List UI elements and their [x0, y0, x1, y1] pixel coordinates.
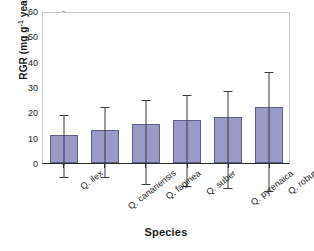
chart-figure: RGR (mg g-1 year-1) 0102030405060 Q. ile…	[0, 0, 314, 251]
y-axis-ticks: 0102030405060	[22, 12, 38, 164]
error-bar-cap-upper	[100, 107, 109, 108]
plot-area	[42, 12, 290, 164]
x-tick-label: Q. ilex	[78, 168, 104, 192]
error-bar-cap-upper	[59, 115, 68, 116]
y-tick-label: 0	[33, 160, 38, 169]
bar-slot	[166, 13, 207, 163]
bar	[50, 135, 78, 163]
bar	[214, 117, 242, 163]
error-bar-cap-upper	[223, 91, 232, 92]
y-tick-label: 20	[28, 109, 38, 118]
y-tick-label: 10	[28, 134, 38, 143]
y-tick-label: 40	[28, 58, 38, 67]
error-bar-cap-upper	[141, 100, 150, 101]
bar-slot	[207, 13, 248, 163]
bar-series	[43, 13, 289, 163]
bar	[91, 130, 119, 163]
y-tick-label: 30	[28, 84, 38, 93]
bar	[132, 124, 160, 163]
x-axis-category-labels: Q. ilexQ. canariensisQ. fagineaQ. suberQ…	[42, 168, 290, 214]
error-bar-cap-upper	[264, 72, 273, 73]
bar	[173, 120, 201, 163]
y-tick-label: 50	[28, 33, 38, 42]
bar-slot	[43, 13, 84, 163]
bar-slot	[248, 13, 289, 163]
bar	[255, 107, 283, 163]
y-tick-label: 60	[28, 8, 38, 17]
bar-slot	[125, 13, 166, 163]
x-axis-title: Species	[42, 226, 290, 238]
bar-slot	[84, 13, 125, 163]
x-tick-label: Q. suber	[204, 168, 237, 197]
error-bar-cap-upper	[182, 95, 191, 96]
